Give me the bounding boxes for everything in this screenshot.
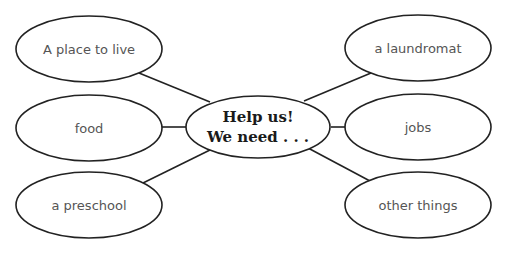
node-ellipse-jobs [345,94,491,160]
node-ellipse-place-to-live [16,16,162,82]
center-label: Help us! We need . . . [186,96,330,158]
center-label-line-1: Help us! [222,107,293,127]
node-ellipse-laundromat [345,15,491,81]
node-ellipse-other-things [345,172,491,238]
concept-web-diagram: A place to live food a preschool a laund… [0,0,508,264]
node-ellipse-food [16,95,162,161]
node-ellipse-preschool [16,172,162,238]
center-label-line-2: We need . . . [207,127,309,147]
